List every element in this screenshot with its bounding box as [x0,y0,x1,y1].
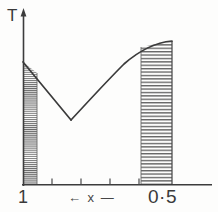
x-axis-ticks [52,179,139,185]
x-tick-label-1: 1 [18,188,28,206]
x-axis-direction-label: ← x — [68,191,115,204]
y-axis-arrowhead [21,8,27,17]
y-axis-title: T [7,7,17,24]
right-hatched-band [140,38,174,186]
figure-container: T 1 0·5 ← x — [0,0,218,212]
plot-canvas [0,0,218,212]
x-tick-label-0point5: 0·5 [148,187,177,206]
